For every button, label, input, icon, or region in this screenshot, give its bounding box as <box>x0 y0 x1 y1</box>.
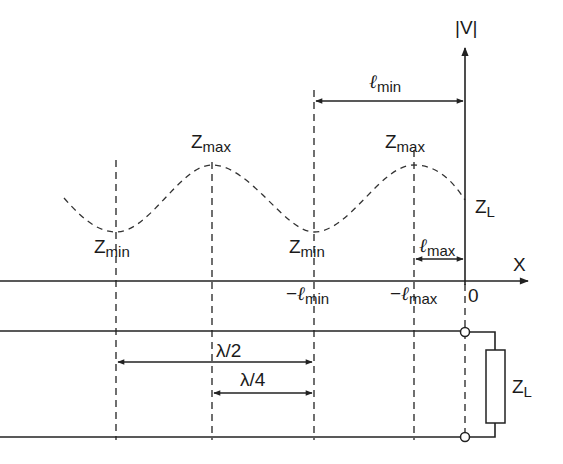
load-wire-top <box>470 332 495 350</box>
x-axis-label: X <box>513 254 526 275</box>
v-axis-label: |V| <box>455 17 478 38</box>
load-impedance <box>486 350 505 423</box>
zl-label-top: ZL <box>475 196 495 220</box>
transmission-line-diagram: |V| X 0 ℓmin ℓmax Zmax Zmax Zmin Zmin ZL… <box>0 0 563 464</box>
zmin-label-2: Zmin <box>289 236 325 260</box>
zmax-label-2: Zmax <box>385 131 425 155</box>
top-terminal <box>461 328 470 337</box>
origin-label: 0 <box>468 285 479 306</box>
bottom-terminal <box>461 433 470 442</box>
quarter-wave-label: λ/4 <box>240 369 266 390</box>
standing-wave-curve <box>64 165 465 232</box>
zmax-label-1: Zmax <box>191 131 231 155</box>
zmin-label-1: Zmin <box>94 236 130 260</box>
load-wire-bottom <box>470 423 495 437</box>
lmax-label: ℓmax <box>419 234 456 259</box>
load-label: ZL <box>512 376 532 400</box>
lmin-label: ℓmin <box>369 70 401 95</box>
neg-lmin-tick-label: −ℓmin <box>286 282 329 307</box>
half-wave-label: λ/2 <box>216 340 241 361</box>
